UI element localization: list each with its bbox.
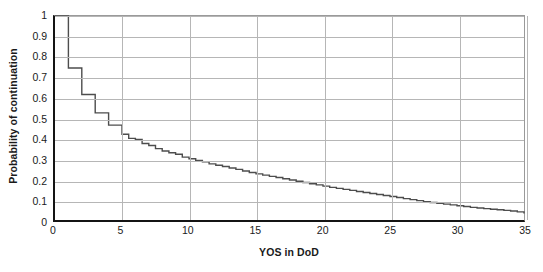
y-axis-tick-label: 0.5 — [32, 113, 47, 125]
x-axis-tick-label: 20 — [317, 224, 329, 236]
y-axis-tick-label: 0 — [41, 216, 47, 228]
horizontal-gridline — [55, 99, 524, 100]
plot-inner — [55, 16, 524, 220]
x-axis-tick-label: 5 — [118, 224, 124, 236]
x-axis-tick-labels: 05101520253035 — [53, 224, 525, 242]
y-axis-tick-label: 1 — [41, 9, 47, 21]
vertical-gridline — [325, 16, 326, 220]
vertical-gridline — [190, 16, 191, 220]
y-axis-title-text: Probability of continuation — [7, 48, 19, 184]
continuation-probability-chart: Probability of continuation 00.10.20.30.… — [0, 0, 543, 272]
x-axis-tick-label: 25 — [384, 224, 396, 236]
y-axis-tick-label: 0.7 — [32, 71, 47, 83]
y-axis-tick-label: 0.3 — [32, 154, 47, 166]
vertical-gridline — [122, 16, 123, 220]
horizontal-gridline — [55, 16, 524, 17]
x-axis-title: YOS in DoD — [53, 246, 525, 258]
horizontal-gridline — [55, 140, 524, 141]
vertical-gridline — [460, 16, 461, 220]
x-axis-tick-label: 30 — [452, 224, 464, 236]
x-axis-tick-label: 10 — [182, 224, 194, 236]
vertical-gridline — [257, 16, 258, 220]
horizontal-gridline — [55, 161, 524, 162]
x-axis-tick-label: 15 — [249, 224, 261, 236]
y-axis-tick-label: 0.8 — [32, 50, 47, 62]
y-axis-tick-label: 0.2 — [32, 175, 47, 187]
horizontal-gridline — [55, 202, 524, 203]
x-axis-tick-label: 35 — [519, 224, 531, 236]
y-axis-tick-label: 0.1 — [32, 195, 47, 207]
y-axis-tick-labels: 00.10.20.30.40.50.60.70.80.91 — [24, 0, 51, 232]
horizontal-gridline — [55, 182, 524, 183]
horizontal-gridline — [55, 37, 524, 38]
plot-area — [53, 15, 525, 222]
y-axis-tick-label: 0.9 — [32, 30, 47, 42]
vertical-gridline — [527, 16, 528, 220]
y-axis-tick-label: 0.4 — [32, 133, 47, 145]
horizontal-gridline — [55, 57, 524, 58]
step-curve — [55, 16, 524, 220]
continuation-step-line — [55, 16, 524, 213]
vertical-gridline — [392, 16, 393, 220]
y-axis-tick-label: 0.6 — [32, 92, 47, 104]
x-axis-tick-label: 0 — [50, 224, 56, 236]
y-axis-title: Probability of continuation — [0, 0, 26, 232]
horizontal-gridline — [55, 120, 524, 121]
horizontal-gridline — [55, 78, 524, 79]
